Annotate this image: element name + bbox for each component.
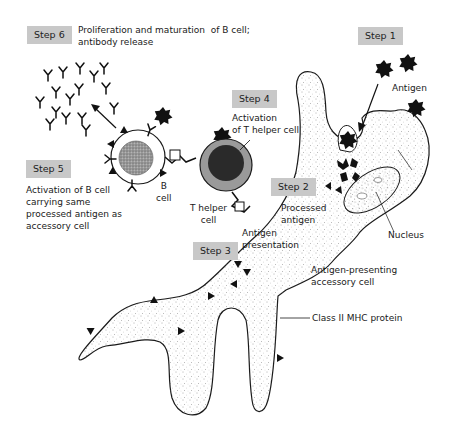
step-4-badge: Step 4 [232, 90, 277, 108]
mhc-label: Class II MHC protein [312, 312, 402, 324]
step-6-text: Proliferation and maturation of B cell; … [78, 24, 250, 48]
step-2-badge: Step 2 [271, 178, 316, 196]
antigen-icon [399, 54, 417, 72]
step-4-text: Activation of T helper cell [232, 112, 299, 136]
step-6-badge: Step 6 [27, 26, 72, 44]
step-1-badge: Step 1 [358, 27, 403, 45]
antigen-icon [375, 60, 393, 78]
released-antibodies [36, 63, 118, 136]
apc-label: Antigen-presenting accessory cell [311, 264, 397, 288]
b-cell-label: B cell [156, 180, 172, 204]
step-5-text: Activation of B cell carrying same proce… [26, 184, 122, 232]
b-cell [105, 107, 173, 191]
processed-antigen-label: Processed antigen [281, 202, 326, 226]
step-3-badge: Step 3 [193, 242, 238, 260]
t-helper-cell [200, 139, 252, 191]
t-helper-label: T helper cell [190, 202, 227, 226]
antigen-label: Antigen [392, 82, 427, 94]
step-5-badge: Step 5 [26, 160, 71, 178]
nucleus-label: Nucleus [388, 229, 424, 241]
antigen-presentation-label: Antigen presentation [242, 227, 299, 251]
